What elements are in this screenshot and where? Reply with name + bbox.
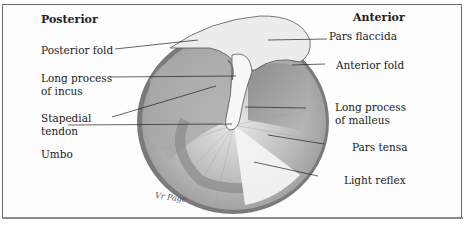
orientation-posterior: Posterior	[41, 14, 98, 26]
orientation-anterior: Anterior	[353, 12, 405, 24]
label-umbo: Umbo	[41, 148, 73, 160]
label-anterior-fold: Anterior fold	[336, 59, 404, 71]
label-long-process-incus-line1: Long process	[41, 72, 112, 84]
label-long-process-malleus-line2: of malleus	[335, 114, 390, 126]
label-light-reflex: Light reflex	[344, 174, 406, 186]
label-stapedial-tendon-line2: tendon	[41, 125, 78, 137]
label-stapedial-tendon-line1: Stapedial	[41, 112, 91, 124]
label-long-process-incus-line2: of incus	[41, 85, 83, 97]
label-long-process-malleus-line1: Long process	[335, 101, 406, 113]
label-pars-flaccida: Pars flaccida	[329, 30, 397, 42]
label-posterior-fold: Posterior fold	[41, 44, 113, 56]
label-pars-tensa: Pars tensa	[352, 141, 407, 153]
